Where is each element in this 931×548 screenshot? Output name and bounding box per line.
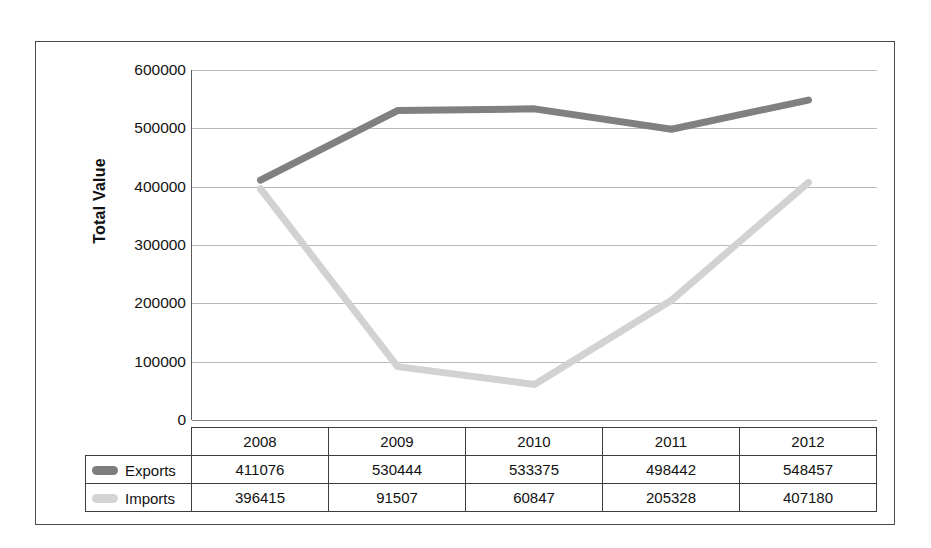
table-value-cell: 533375 <box>466 456 603 484</box>
table-value-cell: 60847 <box>466 484 603 512</box>
plot-area <box>191 70 877 420</box>
table-year-header: 2008 <box>192 428 329 456</box>
legend-cell-exports: Exports <box>86 456 192 484</box>
series-line-imports <box>261 182 809 384</box>
table-row: Imports3964159150760847205328407180 <box>86 484 877 512</box>
series-lines <box>192 70 877 420</box>
table-header-row: 20082009201020112012 <box>86 428 877 456</box>
table-value-cell: 498442 <box>603 456 740 484</box>
table-year-header: 2011 <box>603 428 740 456</box>
table-value-cell: 205328 <box>603 484 740 512</box>
y-tick-label: 300000 <box>66 236 186 254</box>
table-value-cell: 530444 <box>329 456 466 484</box>
chart-frame: Total Value 6000005000004000003000002000… <box>35 41 895 525</box>
y-tick-label: 600000 <box>66 61 186 79</box>
y-tick-label: 100000 <box>66 353 186 371</box>
y-tick-label: 200000 <box>66 294 186 312</box>
legend-cell-imports: Imports <box>86 484 192 512</box>
y-tick-label: 500000 <box>66 119 186 137</box>
legend-swatch-icon <box>92 494 118 503</box>
table-value-cell: 411076 <box>192 456 329 484</box>
table-year-header: 2010 <box>466 428 603 456</box>
data-table-body: 20082009201020112012Exports4110765304445… <box>86 428 877 512</box>
series-line-exports <box>261 100 809 180</box>
table-value-cell: 91507 <box>329 484 466 512</box>
table-year-header: 2012 <box>740 428 877 456</box>
table-year-header: 2009 <box>329 428 466 456</box>
data-table: 20082009201020112012Exports4110765304445… <box>85 427 877 512</box>
table-value-cell: 407180 <box>740 484 877 512</box>
legend-swatch-icon <box>92 466 118 475</box>
gridline <box>192 420 877 421</box>
legend-label: Exports <box>125 462 176 479</box>
legend-label: Imports <box>125 490 175 507</box>
y-axis-tick-labels: 6000005000004000003000002000001000000 <box>66 42 186 426</box>
y-tick-label: 400000 <box>66 178 186 196</box>
table-value-cell: 396415 <box>192 484 329 512</box>
table-row: Exports411076530444533375498442548457 <box>86 456 877 484</box>
table-value-cell: 548457 <box>740 456 877 484</box>
table-corner-cell <box>86 428 192 456</box>
